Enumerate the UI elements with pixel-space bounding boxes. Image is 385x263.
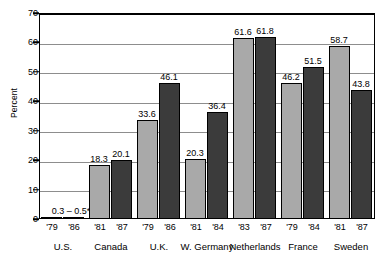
x-group-labels: '79'86U.S. bbox=[39, 222, 87, 263]
x-category-label: U.K. bbox=[150, 241, 168, 252]
bar-france-84 bbox=[303, 67, 324, 219]
bar-canada-81 bbox=[89, 165, 110, 219]
bar-w-germany-81 bbox=[185, 159, 206, 219]
bar-group: 0.3 – 0.5* bbox=[39, 13, 87, 219]
x-axis-labels: '79'86U.S.'81'87Canada'79'86U.K.'81'84W.… bbox=[39, 222, 375, 263]
x-group-labels: '81'87Sweden bbox=[327, 222, 375, 263]
x-category-label: Netherlands bbox=[229, 241, 280, 252]
bar-netherlands-83 bbox=[233, 38, 254, 219]
x-group-labels: '81'84W. Germany bbox=[183, 222, 231, 263]
x-category-label: W. Germany bbox=[181, 241, 234, 252]
bar-france-79 bbox=[281, 83, 302, 219]
bar-netherlands-87 bbox=[255, 37, 276, 219]
bar-u-s--86 bbox=[63, 217, 84, 219]
bar-chart: Percent 010203040506070 0.3 – 0.5*18.320… bbox=[0, 0, 385, 263]
bar-group: 33.646.1 bbox=[135, 13, 183, 219]
x-category-label: Canada bbox=[94, 241, 127, 252]
bar-w-germany-84 bbox=[207, 112, 228, 219]
x-category-label: Sweden bbox=[334, 241, 368, 252]
bar-value-label: 58.7 bbox=[319, 35, 359, 45]
x-group-labels: '79'84France bbox=[279, 222, 327, 263]
bar-group: 20.336.4 bbox=[183, 13, 231, 219]
bar-group: 61.661.8 bbox=[231, 13, 279, 219]
bar-u-s--79 bbox=[41, 217, 62, 219]
bar-group: 58.743.8 bbox=[327, 13, 375, 219]
bars-layer: 0.3 – 0.5*18.320.133.646.120.336.461.661… bbox=[39, 13, 375, 219]
x-group-labels: '79'86U.K. bbox=[135, 222, 183, 263]
bar-value-label: 43.8 bbox=[341, 79, 381, 89]
bar-sweden-81 bbox=[329, 46, 350, 219]
x-year-label: '87 bbox=[347, 222, 377, 232]
x-group-labels: '81'87Canada bbox=[87, 222, 135, 263]
bar-u-k--79 bbox=[137, 120, 158, 219]
bar-canada-87 bbox=[111, 160, 132, 219]
x-category-label: U.S. bbox=[54, 241, 72, 252]
x-category-label: France bbox=[288, 241, 318, 252]
x-group-labels: '83'87Netherlands bbox=[231, 222, 279, 263]
bar-sweden-87 bbox=[351, 90, 372, 219]
